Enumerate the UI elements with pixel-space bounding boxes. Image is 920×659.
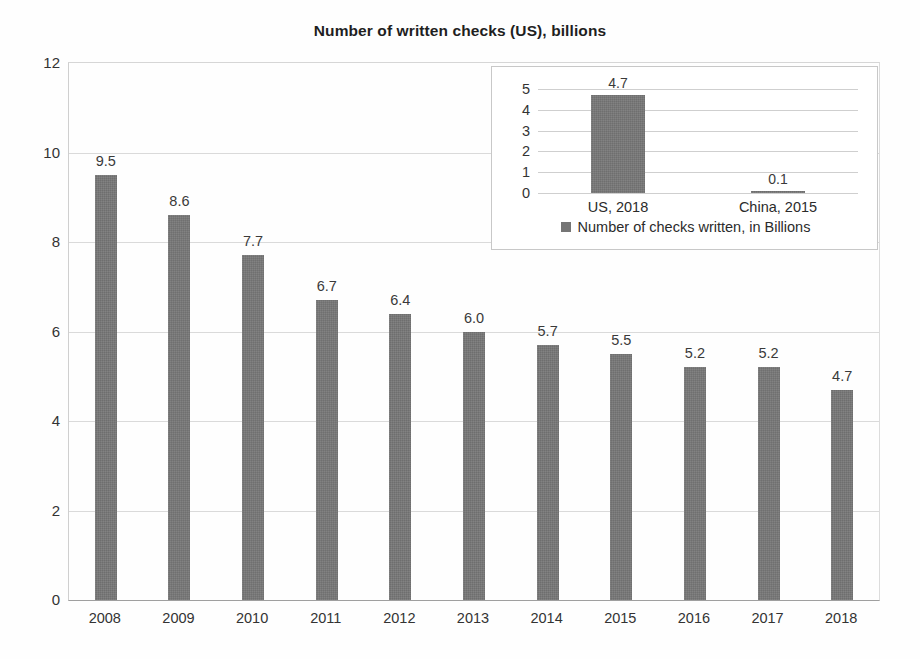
inset-gridline — [538, 131, 858, 132]
bar-value-label: 5.5 — [611, 332, 631, 348]
inset-gridline — [538, 172, 858, 173]
inset-bar — [591, 95, 645, 193]
inset-y-tick-label: 5 — [504, 81, 530, 97]
legend-swatch-icon — [561, 222, 571, 232]
inset-legend: Number of checks written, in Billions — [492, 219, 879, 235]
bar — [758, 367, 780, 600]
y-tick-label: 10 — [16, 143, 60, 160]
inset-y-tick-label: 4 — [504, 102, 530, 118]
inset-bar-value-label: 0.1 — [768, 171, 787, 187]
x-tick-label: 2009 — [162, 610, 194, 626]
x-axis: 2008200920102011201220132014201520162017… — [0, 610, 920, 636]
x-tick-label: 2016 — [678, 610, 710, 626]
y-tick-label: 6 — [16, 322, 60, 339]
bar — [537, 345, 559, 600]
inset-x-tick-label: China, 2015 — [739, 199, 817, 215]
bar-value-label: 6.0 — [464, 310, 484, 326]
chart-title: Number of written checks (US), billions — [0, 22, 920, 40]
bar — [684, 367, 706, 600]
chart-container: Number of written checks (US), billions … — [0, 0, 920, 659]
x-tick-label: 2008 — [89, 610, 121, 626]
y-tick-label: 8 — [16, 233, 60, 250]
bar-value-label: 5.7 — [538, 323, 558, 339]
bar — [242, 255, 264, 600]
y-tick-label: 0 — [16, 591, 60, 608]
inset-gridline — [538, 89, 858, 90]
bar — [316, 300, 338, 600]
inset-plot-area: 0123454.7US, 20180.1China, 2015 — [538, 89, 858, 193]
x-tick-label: 2010 — [236, 610, 268, 626]
bar-value-label: 6.7 — [317, 278, 337, 294]
y-tick-label: 12 — [16, 54, 60, 71]
bar-value-label: 5.2 — [758, 345, 778, 361]
y-tick-label: 4 — [16, 412, 60, 429]
bar-value-label: 5.2 — [685, 345, 705, 361]
x-tick-label: 2017 — [751, 610, 783, 626]
inset-y-tick-label: 0 — [504, 185, 530, 201]
bar-value-label: 7.7 — [243, 233, 263, 249]
bar-value-label: 8.6 — [169, 193, 189, 209]
inset-bar-value-label: 4.7 — [608, 75, 627, 91]
bar-value-label: 4.7 — [832, 368, 852, 384]
inset-y-tick-label: 1 — [504, 164, 530, 180]
bar — [168, 215, 190, 600]
y-tick-label: 2 — [16, 501, 60, 518]
inset-y-tick-label: 2 — [504, 143, 530, 159]
bar — [389, 314, 411, 600]
inset-bar — [751, 191, 805, 193]
bar — [95, 175, 117, 600]
x-tick-label: 2015 — [604, 610, 636, 626]
x-tick-label: 2012 — [383, 610, 415, 626]
inset-chart: 0123454.7US, 20180.1China, 2015 Number o… — [491, 66, 878, 250]
bar-value-label: 6.4 — [390, 292, 410, 308]
x-tick-label: 2011 — [310, 610, 341, 626]
bar — [463, 332, 485, 601]
inset-gridline — [538, 151, 858, 152]
x-tick-label: 2014 — [530, 610, 562, 626]
bar — [610, 354, 632, 600]
inset-x-tick-label: US, 2018 — [588, 199, 648, 215]
y-axis: 024681012 — [8, 62, 60, 602]
inset-gridline — [538, 193, 858, 194]
inset-gridline — [538, 110, 858, 111]
bar-value-label: 9.5 — [96, 153, 116, 169]
legend-label: Number of checks written, in Billions — [578, 219, 811, 235]
bar — [831, 390, 853, 600]
x-tick-label: 2013 — [457, 610, 489, 626]
inset-y-tick-label: 3 — [504, 123, 530, 139]
x-tick-label: 2018 — [825, 610, 857, 626]
